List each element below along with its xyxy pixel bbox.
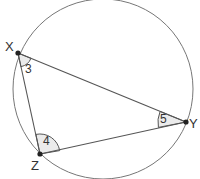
point-y [183, 119, 188, 124]
label-angle-x: 3 [25, 62, 32, 76]
diagram-canvas: X Y Z 3 4 5 [0, 0, 200, 179]
label-angle-z: 4 [43, 134, 50, 148]
label-point-z: Z [31, 158, 39, 173]
point-x [15, 50, 20, 55]
side-yz [40, 122, 186, 154]
point-z [37, 151, 42, 156]
label-point-x: X [5, 39, 14, 54]
label-point-y: Y [189, 116, 198, 131]
label-angle-y: 5 [160, 112, 167, 126]
